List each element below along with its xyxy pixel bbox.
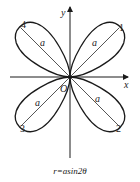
petal-2-length-label: a: [95, 93, 100, 104]
y-axis-label: y: [60, 7, 66, 18]
petal-1-length-label: a: [92, 37, 97, 48]
petal-3-label: 3: [20, 123, 25, 134]
petal-4-length-label: a: [40, 37, 45, 48]
petal-1-label: 1: [119, 22, 124, 33]
equation-caption: r=asin2θ: [53, 166, 87, 176]
petal-2-label: 2: [116, 123, 121, 134]
x-axis-label: x: [123, 79, 129, 90]
origin-label: O: [60, 83, 67, 94]
petal-3-length-label: a: [35, 97, 40, 108]
rose-curve-diagram: y x O 1 2 3 4 a a a a r=asin2θ: [0, 0, 140, 182]
petal-4-label: 4: [21, 19, 26, 30]
